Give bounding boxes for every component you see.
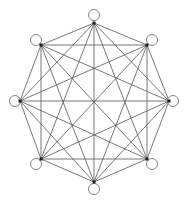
vertex-right [168, 100, 171, 103]
complete-graph-k8 [0, 0, 190, 203]
edge-bottom-left [20, 101, 94, 182]
edge-bottom-top-left [41, 45, 94, 182]
edge-top-top-right [94, 23, 147, 45]
vertex-top [93, 22, 96, 25]
vertex-top-left [40, 44, 43, 47]
edge-right-bottom [94, 101, 169, 182]
vertex-left [19, 100, 22, 103]
edge-top-right-left [20, 45, 147, 101]
vertex-bottom [93, 181, 96, 184]
edge-left-top-left [20, 45, 41, 101]
edge-top-right-bottom [94, 45, 147, 182]
edge-right-top-left [41, 45, 169, 101]
vertex-circle-top [89, 10, 100, 21]
edge-bottom-left-left [20, 101, 41, 159]
vertex-bottom-left [40, 158, 43, 161]
edge-top-top-left [41, 23, 94, 45]
vertex-top-right [146, 44, 149, 47]
vertex-bottom-right [146, 158, 149, 161]
vertex-circle-bottom [89, 184, 100, 195]
